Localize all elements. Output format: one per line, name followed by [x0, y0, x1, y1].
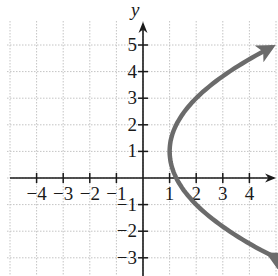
y-tick-label: 4: [128, 61, 138, 82]
x-tick-label: 1: [165, 183, 175, 204]
x-tick-label: −4: [26, 183, 47, 204]
y-tick-label: −1: [117, 194, 137, 215]
x-tick-label: 4: [245, 183, 255, 204]
y-tick-label: 2: [128, 114, 138, 135]
y-tick-label: 1: [128, 140, 138, 161]
y-tick-label: 3: [128, 87, 138, 108]
x-tick-label: −2: [80, 183, 100, 204]
y-tick-label: 5: [128, 34, 138, 55]
parabola-graph: −4−3−2−11234−3−2−112345 y: [0, 0, 278, 276]
x-tick-label: −3: [53, 183, 73, 204]
y-tick-label: −3: [117, 247, 137, 268]
y-axis-label: y: [129, 0, 140, 20]
axes: [10, 24, 274, 276]
y-tick-label: −2: [117, 220, 137, 241]
x-tick-label: 3: [218, 183, 228, 204]
